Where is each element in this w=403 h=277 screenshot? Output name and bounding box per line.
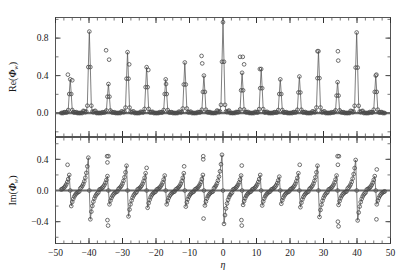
outlier-point <box>182 164 186 168</box>
x-tick-label: −50 <box>48 248 63 258</box>
series-upper <box>59 20 386 115</box>
outlier-point <box>106 224 110 228</box>
x-tick-label: −20 <box>149 248 164 258</box>
outlier-point <box>200 54 204 58</box>
outlier-point <box>298 163 302 167</box>
x-tick-label: −10 <box>182 248 197 258</box>
outlier-point <box>145 166 149 170</box>
peak-line <box>195 76 213 113</box>
peak-line <box>233 73 251 113</box>
peak-line <box>348 32 366 113</box>
outlier-point <box>66 163 70 167</box>
outlier-point <box>336 220 340 224</box>
x-tick-label: 30 <box>319 248 329 258</box>
peak-line <box>61 79 79 113</box>
outlier-point <box>104 48 108 52</box>
x-axis-label: η <box>221 259 226 270</box>
outlier-point <box>106 161 110 165</box>
outlier-point <box>241 55 245 59</box>
x-tick-label: −30 <box>115 248 130 258</box>
x-tick-label: 40 <box>352 248 362 258</box>
peak-line <box>157 79 175 113</box>
outlier-point <box>240 224 244 228</box>
outlier-point <box>200 62 204 66</box>
outlier-point <box>106 218 110 222</box>
y-axis-label-re: Re(Φw) <box>7 62 19 92</box>
y-tick-label: 0.4 <box>37 71 49 81</box>
outlier-point <box>336 49 340 53</box>
peak-line <box>118 52 136 113</box>
peak-line <box>252 69 270 113</box>
peak-line <box>271 79 289 113</box>
x-tick-label: 0 <box>221 248 226 258</box>
outlier-point <box>240 164 244 168</box>
peak-line <box>214 22 232 113</box>
peak-line <box>138 67 156 113</box>
two-panel-plot: 0.00.40.8−0.40.00.4−50−40−30−20−10010203… <box>0 0 403 277</box>
outlier-point <box>202 217 206 221</box>
outlier-point <box>240 218 244 222</box>
peak-line <box>309 51 327 113</box>
y-tick-label: −0.4 <box>31 217 48 227</box>
figure-container: 0.00.40.8−0.40.00.4−50−40−30−20−10010203… <box>0 0 403 277</box>
y-axis-label-im: Im(Φw) <box>7 175 19 205</box>
peak-line <box>367 76 385 113</box>
outlier-point <box>336 163 340 167</box>
outlier-point <box>337 225 341 229</box>
x-tick-label: 10 <box>252 248 262 258</box>
x-tick-label: 20 <box>285 248 295 258</box>
outlier-point <box>375 168 379 172</box>
outlier-point <box>66 73 70 77</box>
peak-line <box>80 32 98 113</box>
outlier-point <box>375 217 379 221</box>
outlier-point <box>242 63 246 67</box>
series-lower <box>59 153 386 228</box>
y-tick-label: 0.0 <box>37 186 49 196</box>
y-tick-label: 0.0 <box>37 108 49 118</box>
outlier-point <box>107 58 111 62</box>
y-tick-label: 0.4 <box>37 155 49 165</box>
peak-line <box>176 62 194 113</box>
x-tick-label: −40 <box>82 248 97 258</box>
x-tick-label: 50 <box>386 248 396 258</box>
y-tick-label: 0.8 <box>37 33 49 43</box>
outlier-point <box>336 59 340 63</box>
peak-line <box>290 77 308 114</box>
